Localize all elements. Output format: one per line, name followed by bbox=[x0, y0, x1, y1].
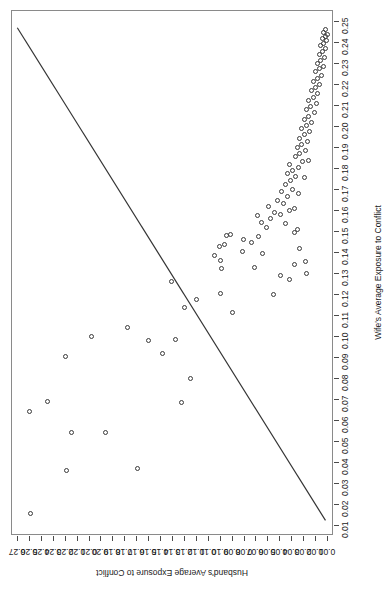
data-point bbox=[315, 91, 320, 96]
y-axis-tick bbox=[17, 536, 18, 541]
data-point bbox=[292, 206, 297, 211]
y-axis-tick-label: 0.27 bbox=[4, 542, 30, 562]
data-point bbox=[288, 178, 293, 183]
data-point bbox=[268, 216, 273, 221]
data-point bbox=[303, 259, 308, 264]
data-point bbox=[306, 114, 311, 119]
x-axis-tick-labels: 0.010.020.030.040.050.060.070.080.090.10… bbox=[333, 10, 361, 535]
data-point bbox=[230, 310, 235, 315]
y-axis-tick-labels: 0.010.020.030.040.050.060.070.080.090.10… bbox=[11, 542, 333, 564]
y-axis-tick bbox=[29, 536, 30, 541]
data-point bbox=[296, 191, 301, 196]
y-axis-tick bbox=[160, 536, 161, 541]
data-point bbox=[308, 104, 313, 109]
data-point bbox=[27, 409, 32, 414]
data-point bbox=[306, 158, 311, 163]
data-point bbox=[259, 220, 264, 225]
data-point bbox=[219, 266, 224, 271]
data-point bbox=[297, 136, 302, 141]
plot-area bbox=[11, 10, 333, 535]
data-point bbox=[278, 212, 283, 217]
y-axis-tick bbox=[124, 536, 125, 541]
data-point bbox=[264, 225, 269, 230]
data-point bbox=[240, 249, 245, 254]
data-point bbox=[103, 430, 108, 435]
data-point bbox=[188, 376, 193, 381]
data-point bbox=[249, 240, 254, 245]
data-point bbox=[290, 168, 295, 173]
data-point bbox=[323, 46, 328, 51]
data-point bbox=[266, 204, 271, 209]
scatter-plot-figure: 0.010.020.030.040.050.060.070.080.090.10… bbox=[0, 0, 389, 597]
data-point bbox=[160, 351, 165, 356]
data-point bbox=[283, 221, 288, 226]
y-axis-tick bbox=[208, 536, 209, 541]
data-point bbox=[317, 82, 322, 87]
y-axis-tick bbox=[77, 536, 78, 541]
y-axis-tick bbox=[315, 536, 316, 541]
data-point bbox=[281, 201, 286, 206]
data-point bbox=[63, 354, 68, 359]
y-axis-tick bbox=[148, 536, 149, 541]
data-point bbox=[69, 430, 74, 435]
data-point bbox=[293, 174, 298, 179]
data-point bbox=[271, 292, 276, 297]
data-point bbox=[314, 101, 319, 106]
data-point bbox=[292, 262, 297, 267]
data-point bbox=[173, 337, 178, 342]
data-point bbox=[135, 466, 140, 471]
data-point bbox=[64, 468, 69, 473]
data-point bbox=[252, 265, 257, 270]
data-point bbox=[287, 162, 292, 167]
data-point bbox=[305, 139, 310, 144]
data-point bbox=[125, 325, 130, 330]
data-point bbox=[295, 227, 300, 232]
data-point bbox=[275, 198, 280, 203]
y-axis-tick bbox=[232, 536, 233, 541]
data-point bbox=[304, 123, 309, 128]
data-point bbox=[146, 338, 151, 343]
y-axis-tick bbox=[41, 536, 42, 541]
data-point bbox=[322, 55, 327, 60]
data-point bbox=[28, 511, 33, 516]
data-point bbox=[302, 175, 307, 180]
y-axis-tick bbox=[267, 536, 268, 541]
data-point bbox=[194, 297, 199, 302]
y-axis-tick bbox=[100, 536, 101, 541]
data-point bbox=[45, 399, 50, 404]
data-point bbox=[312, 110, 317, 115]
y-axis-tick bbox=[112, 536, 113, 541]
y-axis-tick bbox=[196, 536, 197, 541]
data-point bbox=[169, 279, 174, 284]
data-point bbox=[297, 246, 302, 251]
data-point bbox=[321, 64, 326, 69]
y-axis-tick bbox=[244, 536, 245, 541]
data-point bbox=[256, 234, 261, 239]
data-point bbox=[278, 273, 283, 278]
data-point bbox=[89, 334, 94, 339]
data-points-layer bbox=[12, 11, 332, 534]
y-axis-tick bbox=[291, 536, 292, 541]
data-point bbox=[304, 271, 309, 276]
y-axis-tick bbox=[136, 536, 137, 541]
data-point bbox=[217, 244, 222, 249]
y-axis-tick bbox=[184, 536, 185, 541]
data-point bbox=[307, 129, 312, 134]
data-point bbox=[290, 187, 295, 192]
y-axis-tick bbox=[89, 536, 90, 541]
data-point bbox=[285, 171, 290, 176]
data-point bbox=[222, 242, 227, 247]
y-axis-tick bbox=[53, 536, 54, 541]
data-point bbox=[272, 210, 277, 215]
data-point bbox=[218, 291, 223, 296]
x-axis-title: Wife's Average Exposure to Conflict bbox=[371, 10, 385, 535]
data-point bbox=[255, 213, 260, 218]
data-point bbox=[297, 151, 302, 156]
data-point bbox=[302, 132, 307, 137]
data-point bbox=[212, 253, 217, 258]
x-axis-tick-label: 0.25 bbox=[341, 8, 350, 34]
data-point bbox=[309, 120, 314, 125]
data-point bbox=[241, 237, 246, 242]
data-point bbox=[296, 165, 301, 170]
y-axis-tick bbox=[220, 536, 221, 541]
